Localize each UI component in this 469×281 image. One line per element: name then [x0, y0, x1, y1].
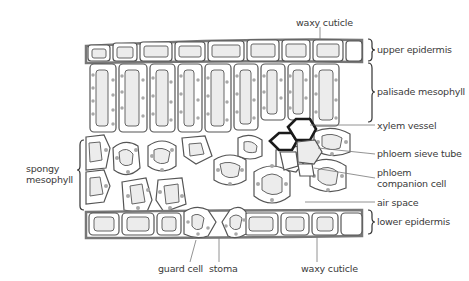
- leaf-cross-section-diagram: waxy cuticle upper epidermis palisade me…: [0, 0, 469, 281]
- label-waxy-cuticle-top: waxy cuticle: [296, 17, 353, 28]
- label-xylem-vessel: xylem vessel: [377, 120, 436, 131]
- leaf-illustration: [0, 0, 469, 281]
- label-spongy-line2: mesophyll: [26, 174, 73, 185]
- label-air-space: air space: [377, 197, 418, 208]
- label-phloem-sieve-tube: phloem sieve tube: [377, 148, 462, 159]
- label-waxy-cuticle-bottom: waxy cuticle: [301, 263, 358, 274]
- label-lower-epidermis: lower epidermis: [377, 216, 450, 227]
- label-palisade-mesophyll: palisade mesophyll: [377, 86, 465, 97]
- label-guard-cell: guard cell: [158, 263, 203, 274]
- label-stoma: stoma: [209, 263, 238, 274]
- lower-epidermis-cells: [86, 207, 362, 238]
- label-phloem-companion-line2: companion cell: [377, 178, 446, 189]
- upper-epidermis-cells: [86, 40, 362, 63]
- label-phloem-companion-line1: phloem: [377, 167, 411, 178]
- label-spongy-line1: spongy: [26, 163, 59, 174]
- label-upper-epidermis: upper epidermis: [377, 44, 452, 55]
